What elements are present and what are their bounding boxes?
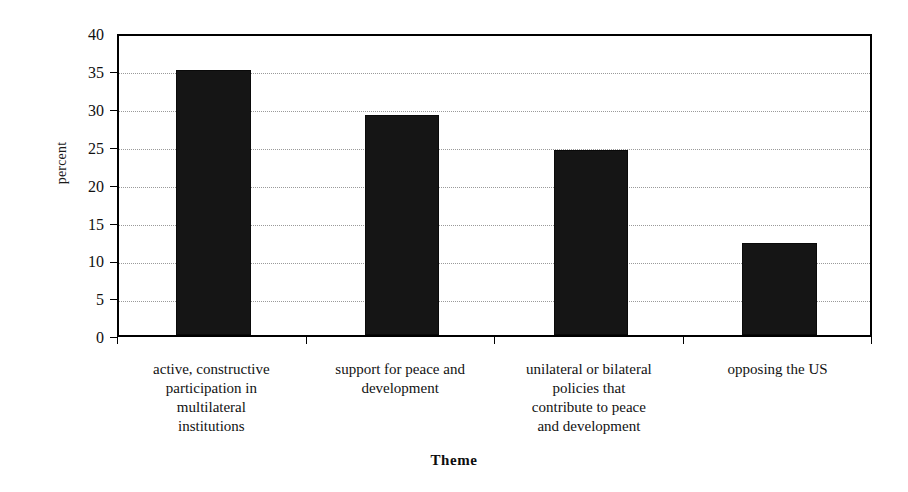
y-tick-label: 15 [62,217,104,233]
y-tick-label: 0 [62,330,104,346]
bar [554,150,629,335]
y-tick-mark [110,299,117,300]
x-tick-mark [871,337,872,344]
x-tick-mark [683,337,684,344]
bar [176,70,251,335]
y-tick-mark [110,148,117,149]
category-label: support for peace anddevelopment [310,360,491,398]
bar [365,115,440,335]
y-tick-mark [110,72,117,73]
y-tick-mark [110,224,117,225]
category-label: active, constructiveparticipation inmult… [121,360,302,436]
category-label-line: multilateral [121,398,302,417]
y-tick-label: 5 [62,292,104,308]
x-tick-mark [117,337,118,344]
category-label-line: policies that [499,379,680,398]
x-tick-mark [306,337,307,344]
y-tick-label: 35 [62,65,104,81]
y-tick-mark [110,337,117,338]
category-label-line: support for peace and [310,360,491,379]
y-axis-title: percent [54,123,70,203]
category-label-line: development [310,379,491,398]
category-label: unilateral or bilateralpolicies thatcont… [499,360,680,436]
y-tick-label: 30 [62,103,104,119]
category-label-line: unilateral or bilateral [499,360,680,379]
bar [742,243,817,335]
y-tick-mark [110,262,117,263]
category-label: opposing the US [687,360,868,379]
y-tick-mark [110,110,117,111]
category-label-line: participation in [121,379,302,398]
bar-chart: percent 40 35 30 25 20 15 10 5 0 [0,0,908,492]
category-label-line: active, constructive [121,360,302,379]
y-tick-mark [110,186,117,187]
bar-series [119,36,870,335]
y-tick-label: 10 [62,254,104,270]
x-tick-mark [494,337,495,344]
category-label-line: institutions [121,417,302,436]
x-axis-title: Theme [0,452,908,469]
category-label-line: and development [499,417,680,436]
category-label-line: contribute to peace [499,398,680,417]
y-tick-label: 40 [62,27,104,43]
plot-area [117,34,872,337]
x-axis-categories: active, constructiveparticipation inmult… [117,360,872,455]
category-label-line: opposing the US [687,360,868,379]
